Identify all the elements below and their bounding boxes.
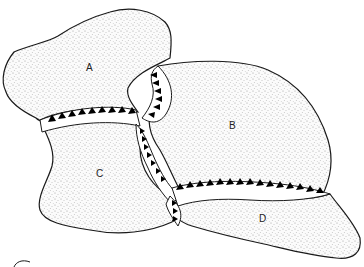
block-d [171, 193, 360, 258]
tectonic-block-diagram [0, 0, 364, 267]
block-label-c: C [96, 168, 103, 179]
block-label-d: D [259, 213, 266, 224]
block-b [149, 61, 331, 196]
partial-outline-fragment [14, 261, 30, 267]
block-label-b: B [229, 120, 236, 131]
block-label-a: A [86, 62, 93, 73]
